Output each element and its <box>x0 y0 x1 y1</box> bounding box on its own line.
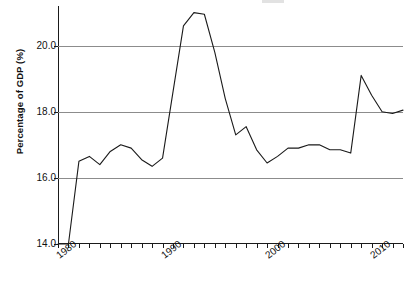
x-tick-mark-2013 <box>403 244 404 248</box>
x-tick-mark-2003 <box>298 244 299 248</box>
x-tick-mark-1999 <box>257 244 258 248</box>
x-tick-mark-2002 <box>288 244 289 248</box>
x-tick-mark-1984 <box>100 244 101 248</box>
x-tick-mark-1983 <box>89 244 90 248</box>
y-tick-label-18.0: 18.0 <box>22 107 56 117</box>
x-tick-mark-1989 <box>152 244 153 248</box>
x-tick-mark-2012 <box>393 244 394 248</box>
x-tick-mark-1986 <box>121 244 122 248</box>
x-tick-mark-1998 <box>246 244 247 248</box>
plot-area <box>58 6 403 244</box>
x-tick-mark-1982 <box>79 244 80 248</box>
x-tick-mark-1985 <box>110 244 111 248</box>
y-axis-tick-labels: 14.016.018.020.0 <box>18 0 56 284</box>
x-tick-mark-1995 <box>215 244 216 248</box>
x-tick-mark-2004 <box>309 244 310 248</box>
x-tick-mark-2008 <box>351 244 352 248</box>
x-tick-mark-2009 <box>361 244 362 248</box>
x-tick-mark-1987 <box>131 244 132 248</box>
y-tick-label-14.0: 14.0 <box>22 239 56 249</box>
x-tick-mark-1988 <box>142 244 143 248</box>
data-series-line <box>58 6 403 244</box>
x-tick-mark-2005 <box>319 244 320 248</box>
x-tick-mark-2006 <box>330 244 331 248</box>
x-axis-tick-labels: 1980199020002010 <box>58 250 409 284</box>
x-tick-mark-1993 <box>194 244 195 248</box>
x-tick-mark-1997 <box>236 244 237 248</box>
y-tick-label-20.0: 20.0 <box>22 41 56 51</box>
x-tick-mark-1992 <box>183 244 184 248</box>
x-tick-mark-1994 <box>204 244 205 248</box>
x-tick-mark-1996 <box>225 244 226 248</box>
x-tick-mark-2007 <box>340 244 341 248</box>
y-tick-label-16.0: 16.0 <box>22 173 56 183</box>
cropped-title-artifact <box>262 0 284 3</box>
chart-figure: Percentage of GDP (%) 14.016.018.020.0 1… <box>0 0 409 284</box>
